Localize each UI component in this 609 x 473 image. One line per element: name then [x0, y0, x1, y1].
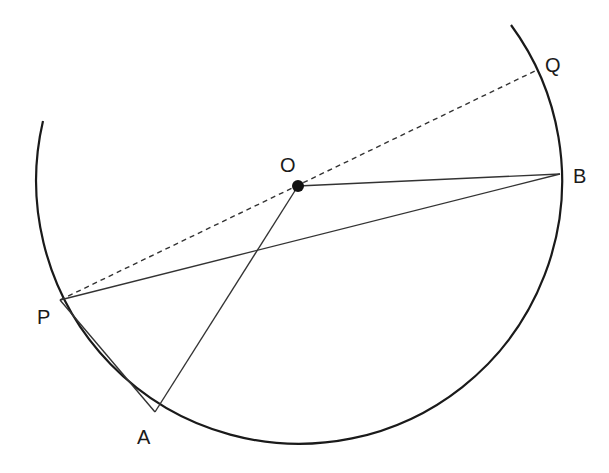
center-point-o	[292, 180, 304, 192]
geometry-diagram: O B P A Q	[0, 0, 609, 473]
label-a: A	[137, 426, 151, 448]
segment-pa	[60, 300, 155, 412]
label-q: Q	[545, 54, 561, 76]
label-b: B	[573, 165, 586, 187]
label-o: O	[280, 154, 296, 176]
segment-pb	[60, 174, 560, 300]
circle-arc	[36, 25, 562, 444]
label-p: P	[37, 306, 50, 328]
